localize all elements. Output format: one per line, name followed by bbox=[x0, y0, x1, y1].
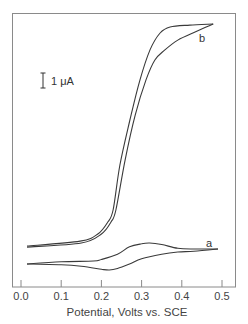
curve-label-a: a bbox=[206, 237, 213, 249]
x-tick-label: 0.0 bbox=[13, 290, 28, 302]
scale-bar: 1 μA bbox=[41, 73, 75, 88]
x-tick-label: 0.3 bbox=[134, 290, 149, 302]
voltammogram-chart: 0.00.10.20.30.40.5 1 μA b a Potential, V… bbox=[0, 0, 248, 324]
scale-bar-label: 1 μA bbox=[51, 75, 75, 87]
curves bbox=[27, 24, 218, 270]
curve-b-forward bbox=[27, 24, 213, 247]
x-tick-label: 0.5 bbox=[214, 290, 229, 302]
x-axis-tick-labels: 0.00.10.20.30.40.5 bbox=[13, 290, 229, 302]
curve-label-b: b bbox=[199, 32, 205, 44]
x-axis-title: Potential, Volts vs. SCE bbox=[67, 306, 188, 318]
curve-a-forward bbox=[27, 243, 218, 264]
curve-b-reverse bbox=[27, 24, 213, 246]
x-tick-label: 0.1 bbox=[54, 290, 69, 302]
curve-a-reverse bbox=[27, 249, 218, 270]
x-axis-ticks bbox=[21, 280, 222, 287]
x-tick-label: 0.4 bbox=[174, 290, 189, 302]
x-tick-label: 0.2 bbox=[94, 290, 109, 302]
